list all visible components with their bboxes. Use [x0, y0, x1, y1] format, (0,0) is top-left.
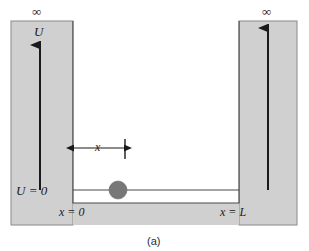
x-origin-label: x = 0 — [59, 206, 84, 218]
infinity-label-left: ∞ — [32, 5, 41, 18]
zero-potential-label: U = 0 — [16, 184, 47, 197]
well-floor-region — [73, 203, 239, 225]
particle-marker — [109, 181, 127, 199]
well-interior — [73, 21, 239, 203]
x-length-label: x = L — [220, 206, 246, 218]
potential-symbol-label: U — [34, 25, 43, 38]
well-diagram-canvas — [0, 0, 309, 251]
infinity-label-right: ∞ — [262, 5, 271, 18]
infinite-square-well-figure: ∞ ∞ U U = 0 x = 0 x = L x (a) — [0, 0, 309, 251]
figure-caption: (a) — [147, 236, 160, 247]
x-dimension-label: x — [95, 141, 100, 153]
